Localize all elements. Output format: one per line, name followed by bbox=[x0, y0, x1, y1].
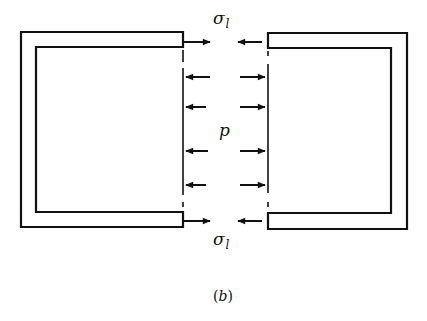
right-shell bbox=[268, 33, 407, 229]
sigma-l-top-label: σl bbox=[213, 10, 228, 27]
pressure-label: p bbox=[219, 122, 230, 139]
figure-caption: (b) bbox=[213, 289, 233, 303]
pressure-arrows-left bbox=[186, 77, 210, 185]
sigma-subscript: l bbox=[226, 17, 230, 31]
caption-letter: b bbox=[218, 288, 227, 304]
sigma-l-bottom-label: σl bbox=[213, 231, 228, 248]
left-shell bbox=[21, 32, 183, 227]
sigma-subscript: l bbox=[226, 238, 230, 252]
pressure-arrows-right bbox=[240, 77, 265, 185]
sigma-symbol: σ bbox=[213, 229, 225, 249]
diagram-canvas bbox=[0, 0, 427, 321]
sigma-symbol: σ bbox=[213, 8, 225, 28]
